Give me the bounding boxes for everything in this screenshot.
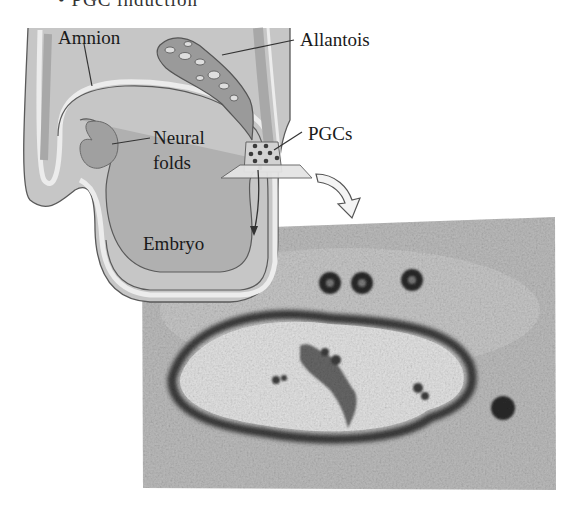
figure: • PGC induction [0,0,570,508]
label-pgcs: PGCs [308,124,352,143]
embryo-diagram [0,0,570,508]
label-embryo: Embryo [143,234,204,253]
label-neural-folds-line2: folds [153,153,191,172]
label-neural-folds-line1: Neural [153,128,205,147]
label-allantois: Allantois [300,30,370,49]
label-amnion: Amnion [58,28,120,47]
